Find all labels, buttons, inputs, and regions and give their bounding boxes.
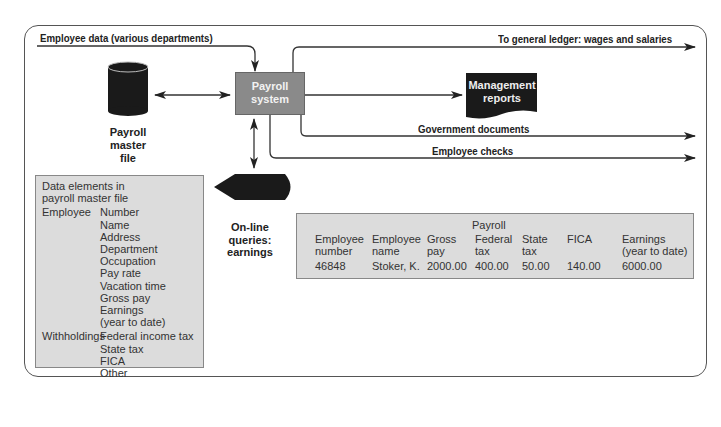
- payroll-record-title: Payroll: [472, 219, 506, 231]
- data-elements-panel: Data elements in payroll master file Emp…: [35, 175, 204, 368]
- withholdings-group: Withholdings Federal income tax State ta…: [42, 330, 197, 379]
- col-gross-pay: Grosspay 2000.00: [427, 233, 467, 272]
- col-employee-number: Employeenumber 46848: [315, 233, 364, 272]
- display-icon: [214, 174, 291, 200]
- management-reports-label: Management reports: [468, 79, 536, 105]
- payroll-system-process: Payroll system: [235, 72, 305, 115]
- payroll-record-table: Payroll Employeenumber 46848 Employeenam…: [296, 213, 694, 279]
- employee-group: Employee Number Name Address Department …: [42, 206, 197, 328]
- payroll-system-label: Payroll system: [247, 80, 293, 106]
- col-federal-tax: Federaltax 400.00: [475, 233, 512, 272]
- col-employee-name: Employeename Stoker, K.: [372, 233, 421, 272]
- output-employee-checks: Employee checks: [432, 145, 513, 157]
- col-fica: FICA 140.00: [567, 233, 601, 272]
- payroll-master-file-label: Payroll master file: [98, 126, 158, 165]
- col-earnings-ytd: Earnings(year to date) 6000.00: [622, 233, 687, 272]
- output-general-ledger: To general ledger: wages and salaries: [498, 33, 672, 45]
- col-state-tax: Statetax 50.00: [522, 233, 550, 272]
- database-icon: [108, 62, 148, 116]
- online-queries-label: On-line queries: earnings: [220, 221, 280, 259]
- input-employee-data: Employee data (various departments): [40, 32, 213, 44]
- output-government-documents: Government documents: [418, 123, 529, 135]
